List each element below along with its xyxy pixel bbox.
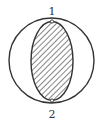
diagram: 1 2 <box>0 0 107 124</box>
point-1-label: 1 <box>49 5 56 18</box>
point-2-label: 2 <box>49 108 56 121</box>
hatched-ellipse <box>31 22 73 101</box>
point-2-marker <box>50 99 53 102</box>
point-1-marker <box>50 20 53 23</box>
